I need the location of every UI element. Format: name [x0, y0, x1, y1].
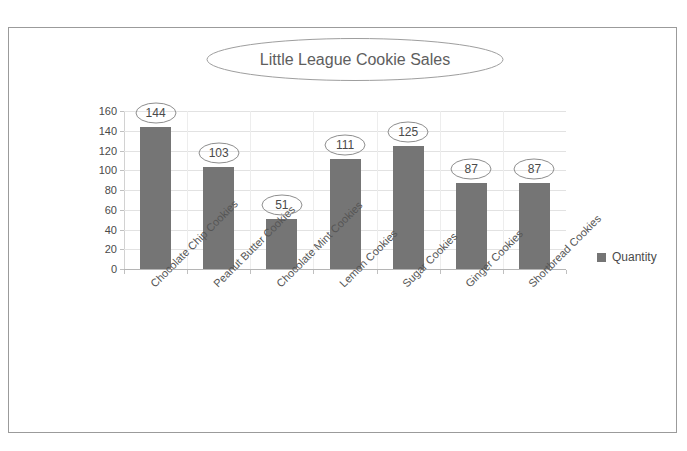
y-axis-tick-label: 40	[105, 224, 117, 236]
legend: Quantity	[597, 250, 657, 264]
bar[interactable]	[393, 146, 424, 269]
data-label-value: 111	[323, 133, 367, 157]
x-axis-tick	[250, 270, 251, 274]
y-axis-tick	[120, 111, 124, 112]
chart-title: Little League Cookie Sales	[205, 37, 505, 82]
data-label-value: 144	[134, 101, 178, 125]
y-axis-tick	[120, 170, 124, 171]
y-axis-tick-label: 60	[105, 204, 117, 216]
y-axis-tick-label: 100	[99, 164, 117, 176]
bar[interactable]	[519, 183, 550, 269]
data-label-callout: 87	[449, 157, 493, 181]
legend-swatch-quantity	[597, 253, 606, 262]
data-label-callout: 103	[197, 141, 241, 165]
x-axis-line	[124, 269, 566, 270]
y-axis-tick-label: 20	[105, 243, 117, 255]
data-label-value: 51	[260, 193, 304, 217]
x-axis-tick	[566, 270, 567, 274]
x-axis-tick	[440, 270, 441, 274]
y-axis-labels: 160140120100806040200	[69, 28, 117, 451]
bar[interactable]	[456, 183, 487, 269]
bar[interactable]	[140, 127, 171, 269]
y-axis-tick-label: 80	[105, 184, 117, 196]
x-axis-tick	[124, 270, 125, 274]
y-axis-tick-label: 120	[99, 145, 117, 157]
y-axis-tick	[120, 151, 124, 152]
chart-frame: Little League Cookie Sales 1601401201008…	[8, 27, 677, 433]
data-label-value: 87	[512, 157, 556, 181]
data-label-callout: 51	[260, 193, 304, 217]
x-axis-tick	[377, 270, 378, 274]
data-label-value: 125	[386, 120, 430, 144]
y-axis-tick	[120, 249, 124, 250]
data-label-callout: 125	[386, 120, 430, 144]
data-label-value: 103	[197, 141, 241, 165]
x-axis-tick	[503, 270, 504, 274]
data-label-callout: 144	[134, 101, 178, 125]
chart-title-container: Little League Cookie Sales	[205, 37, 505, 82]
y-axis-tick-label: 140	[99, 125, 117, 137]
data-label-callout: 87	[512, 157, 556, 181]
x-axis-tick	[313, 270, 314, 274]
y-axis-tick	[120, 210, 124, 211]
y-axis-tick	[120, 190, 124, 191]
x-axis-tick	[187, 270, 188, 274]
y-axis-tick-label: 0	[111, 263, 117, 275]
data-label-value: 87	[449, 157, 493, 181]
data-label-callout: 111	[323, 133, 367, 157]
y-axis-tick-label: 160	[99, 105, 117, 117]
legend-label-quantity: Quantity	[612, 250, 657, 264]
y-axis-tick	[120, 230, 124, 231]
y-axis-tick	[120, 131, 124, 132]
